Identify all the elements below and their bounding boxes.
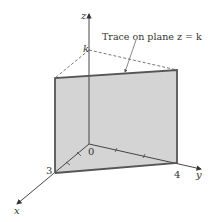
x-axis-label: x bbox=[14, 205, 20, 216]
k-label: k bbox=[83, 43, 89, 54]
dashed-line-left bbox=[55, 50, 89, 78]
z-axis-label: z bbox=[80, 10, 87, 21]
dashed-line-right bbox=[89, 50, 177, 70]
origin-label: 0 bbox=[88, 146, 94, 157]
diagram-canvas: z k Trace on plane z = k 0 3 4 y x bbox=[0, 0, 213, 222]
trace-diagram: z k Trace on plane z = k 0 3 4 y x bbox=[0, 0, 213, 222]
callout-arrow bbox=[125, 40, 136, 72]
y-intercept-label: 4 bbox=[174, 169, 180, 180]
y-axis-label: y bbox=[195, 169, 202, 180]
x-intercept-label: 3 bbox=[46, 165, 52, 176]
annotation-label: Trace on plane z = k bbox=[102, 31, 202, 42]
